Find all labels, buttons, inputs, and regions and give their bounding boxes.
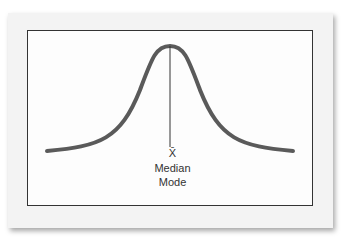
median-label: Median — [0, 161, 345, 175]
mean-label: X̄ — [0, 146, 345, 160]
mode-label: Mode — [0, 175, 345, 189]
bell-curve-diagram — [0, 0, 345, 240]
